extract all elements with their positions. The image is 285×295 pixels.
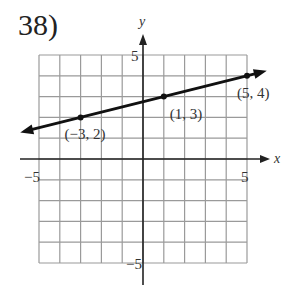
data-point [161, 94, 167, 100]
x-axis-label: x [273, 151, 281, 166]
y-axis-label: y [137, 14, 146, 29]
point-label: (1, 3) [170, 106, 203, 123]
y-axis-arrow-icon [139, 34, 147, 45]
point-label: (5, 4) [237, 85, 270, 102]
y-tick-label-max: 5 [131, 48, 139, 64]
x-tick-label-min: −5 [24, 169, 40, 185]
y-tick-label-min: −5 [126, 256, 142, 272]
point-label: (−3, 2) [65, 126, 106, 143]
x-axis-arrow-icon [260, 155, 270, 163]
labels: xy5−5−55(−3, 2)(1, 3)(5, 4) [24, 14, 281, 272]
x-tick-label-max: 5 [241, 169, 249, 185]
axes [20, 34, 270, 285]
line-arrow-left-icon [20, 124, 34, 134]
data-point [78, 114, 84, 120]
data-point [244, 73, 250, 79]
line-arrow-right-icon [253, 69, 267, 79]
coordinate-plane: xy5−5−55(−3, 2)(1, 3)(5, 4) [0, 0, 285, 295]
